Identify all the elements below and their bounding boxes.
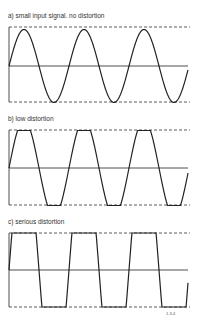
waveform-panel-c xyxy=(9,233,190,307)
waveform-diagram xyxy=(0,0,203,319)
waveform-panel-a xyxy=(9,27,190,103)
figure-id: 1-3-4 xyxy=(166,311,175,316)
waveform-panel-b xyxy=(9,130,190,206)
